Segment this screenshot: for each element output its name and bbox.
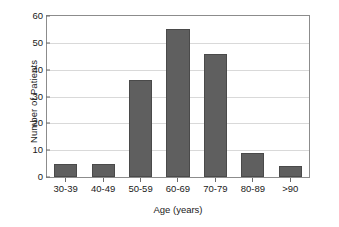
- x-tick-label: 40-49: [84, 184, 121, 194]
- bar: [54, 164, 77, 177]
- bar: [279, 166, 302, 177]
- bar-slot: [197, 16, 234, 177]
- y-tick-label: 20: [3, 119, 43, 129]
- bar: [241, 153, 264, 177]
- bar-slot: [159, 16, 196, 177]
- y-tick-mark: [46, 69, 50, 70]
- bar-slot: [234, 16, 271, 177]
- x-tick-label: 60-69: [159, 184, 196, 194]
- bar: [129, 80, 152, 177]
- y-tick-label: 10: [3, 145, 43, 155]
- y-tick-mark: [46, 96, 50, 97]
- y-tick-label: 60: [3, 11, 43, 21]
- bar-chart: Number of Patients 30-3940-4950-5960-697…: [0, 0, 339, 227]
- x-tick-mark: [140, 178, 141, 182]
- x-tick-mark: [290, 178, 291, 182]
- x-axis-title: Age (years): [46, 204, 310, 215]
- y-tick-mark: [46, 150, 50, 151]
- x-tick-label: 50-59: [122, 184, 159, 194]
- bar-slot: [272, 16, 309, 177]
- y-tick-label: 50: [3, 38, 43, 48]
- bar-slot: [47, 16, 84, 177]
- y-tick-label: 40: [3, 65, 43, 75]
- x-tick-label: 80-89: [234, 184, 271, 194]
- bar: [92, 164, 115, 177]
- y-tick-mark: [46, 123, 50, 124]
- y-tick-mark: [46, 16, 50, 17]
- x-tick-mark: [215, 178, 216, 182]
- x-tick-label: >90: [272, 184, 309, 194]
- x-tick-mark: [103, 178, 104, 182]
- x-tick-label: 70-79: [197, 184, 234, 194]
- y-tick-mark: [46, 177, 50, 178]
- bars-layer: [47, 16, 309, 177]
- x-tick-label: 30-39: [47, 184, 84, 194]
- y-tick-label: 0: [3, 172, 43, 182]
- y-tick-mark: [46, 42, 50, 43]
- x-axis-labels: 30-3940-4950-5960-6970-7980-89>90: [47, 184, 309, 194]
- bar-slot: [84, 16, 121, 177]
- bar: [166, 29, 189, 177]
- x-tick-mark: [177, 178, 178, 182]
- x-tick-mark: [252, 178, 253, 182]
- y-tick-label: 30: [3, 92, 43, 102]
- bar: [204, 54, 227, 177]
- bar-slot: [122, 16, 159, 177]
- x-tick-mark: [65, 178, 66, 182]
